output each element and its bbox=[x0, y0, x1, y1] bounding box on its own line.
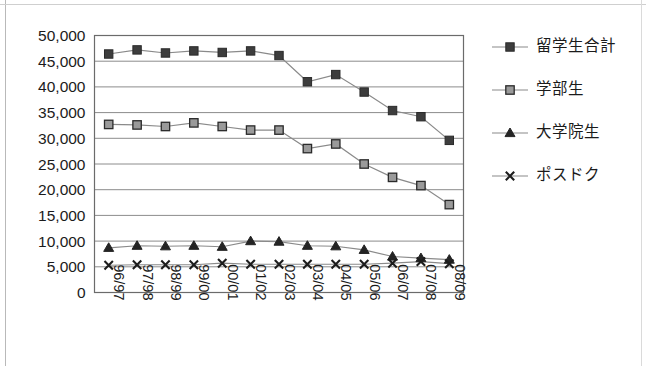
y-axis-tick-label: 0 bbox=[77, 284, 86, 301]
y-axis-tick-label: 30,000 bbox=[38, 130, 86, 147]
x-axis-tick-label: 96/97 bbox=[111, 264, 127, 300]
legend-marker-icon bbox=[506, 86, 514, 94]
data-point-marker bbox=[161, 49, 169, 57]
data-point-marker bbox=[133, 46, 141, 54]
chart-legend: 留学生合計学部生大学院生ポスドク bbox=[492, 37, 616, 183]
legend-item-label: ポスドク bbox=[536, 166, 600, 183]
data-point-marker bbox=[388, 106, 396, 114]
y-axis-tick-label: 20,000 bbox=[38, 181, 86, 198]
data-point-marker bbox=[218, 122, 226, 130]
y-axis-tick-label: 5,000 bbox=[47, 258, 86, 275]
grid-lines bbox=[95, 36, 464, 267]
legend-marker-icon bbox=[505, 128, 515, 137]
x-axis-tick-label: 08/09 bbox=[452, 264, 468, 300]
series-markers bbox=[104, 46, 455, 270]
data-point-marker bbox=[190, 119, 198, 127]
x-axis-tick-label: 98/99 bbox=[168, 264, 184, 300]
legend-item[interactable]: ポスドク bbox=[492, 166, 600, 183]
y-axis-tick-label: 50,000 bbox=[38, 27, 86, 44]
legend-item[interactable]: 学部生 bbox=[492, 80, 584, 97]
data-point-marker bbox=[190, 47, 198, 55]
y-axis-tick-label: 25,000 bbox=[38, 156, 86, 173]
data-point-marker bbox=[104, 120, 112, 128]
legend-item-label: 留学生合計 bbox=[536, 37, 616, 54]
data-point-marker bbox=[246, 236, 256, 245]
x-axis-tick-label: 06/07 bbox=[395, 264, 411, 300]
line-chart: 50,00045,00040,00035,00030,00025,00020,0… bbox=[0, 0, 646, 366]
chart-page: 50,00045,00040,00035,00030,00025,00020,0… bbox=[0, 0, 646, 366]
legend-marker-icon bbox=[506, 43, 514, 51]
data-point-marker bbox=[331, 241, 341, 250]
data-point-marker bbox=[303, 144, 311, 152]
data-point-marker bbox=[218, 48, 226, 56]
data-point-marker bbox=[445, 136, 453, 144]
x-axis-tick-label: 01/02 bbox=[253, 264, 269, 300]
x-axis-tick-labels: 96/9797/9898/9999/0000/0101/0202/0303/04… bbox=[111, 264, 468, 300]
x-axis-tick-label: 03/04 bbox=[310, 264, 326, 300]
x-axis-tick-label: 04/05 bbox=[338, 264, 354, 300]
y-axis-tick-label: 10,000 bbox=[38, 233, 86, 250]
series-markers-3 bbox=[104, 236, 455, 263]
x-axis-tick-label: 05/06 bbox=[367, 264, 383, 300]
data-point-marker bbox=[189, 241, 199, 250]
data-point-marker bbox=[417, 113, 425, 121]
data-point-marker bbox=[445, 200, 453, 208]
data-point-marker bbox=[360, 88, 368, 96]
x-axis-tick-label: 02/03 bbox=[282, 264, 298, 300]
data-point-marker bbox=[360, 160, 368, 168]
data-point-marker bbox=[246, 126, 254, 134]
x-axis-tick-label: 07/08 bbox=[423, 264, 439, 300]
y-axis-tick-label: 35,000 bbox=[38, 104, 86, 121]
legend-item-label: 学部生 bbox=[536, 80, 584, 97]
data-point-marker bbox=[246, 47, 254, 55]
y-axis-tick-label: 15,000 bbox=[38, 207, 86, 224]
data-point-marker bbox=[332, 140, 340, 148]
data-point-marker bbox=[332, 70, 340, 78]
y-axis-tick-label: 40,000 bbox=[38, 78, 86, 95]
data-point-marker bbox=[303, 78, 311, 86]
data-point-marker bbox=[133, 121, 141, 129]
x-axis-tick-label: 00/01 bbox=[225, 264, 241, 300]
y-axis-tick-labels: 50,00045,00040,00035,00030,00025,00020,0… bbox=[38, 27, 86, 301]
legend-item[interactable]: 留学生合計 bbox=[492, 37, 616, 54]
data-point-marker bbox=[417, 181, 425, 189]
series-lines bbox=[109, 50, 450, 265]
x-axis-tick-label: 99/00 bbox=[196, 264, 212, 300]
legend-item[interactable]: 大学院生 bbox=[492, 122, 600, 140]
data-point-marker bbox=[132, 241, 142, 250]
data-point-marker bbox=[161, 122, 169, 130]
legend-item-label: 大学院生 bbox=[536, 122, 600, 140]
y-axis-tick-label: 45,000 bbox=[38, 53, 86, 70]
data-point-marker bbox=[275, 126, 283, 134]
x-axis-tick-label: 97/98 bbox=[140, 264, 156, 300]
data-point-marker bbox=[104, 50, 112, 58]
data-point-marker bbox=[160, 241, 170, 250]
data-point-marker bbox=[275, 51, 283, 59]
data-point-marker bbox=[388, 173, 396, 181]
